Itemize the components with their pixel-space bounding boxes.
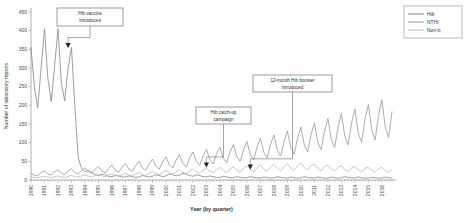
annotation-leader-line xyxy=(206,124,223,163)
y-tick-label: 200 xyxy=(19,102,28,108)
haemophilus-influenzae-line-chart: 050100150200250300350400450Number of lab… xyxy=(0,0,471,223)
x-axis-title: Year (by quarter) xyxy=(190,206,233,212)
x-tick-label: 2004 xyxy=(217,185,223,196)
annotation-arrow-icon xyxy=(204,163,209,168)
x-tick-label: 2003 xyxy=(203,185,209,196)
x-tick-label: 1995 xyxy=(95,185,101,196)
x-tick-label: 2011 xyxy=(311,185,317,196)
x-tick-label: 2013 xyxy=(338,185,344,196)
annotation-text-line: campaign xyxy=(214,117,234,122)
x-tick-label: 2007 xyxy=(257,185,263,196)
x-tick-label: 1990 xyxy=(28,185,34,196)
annotation-text-line: introduced xyxy=(282,85,304,90)
x-tick-label: 2002 xyxy=(190,185,196,196)
annotation-text-line: introduced xyxy=(79,18,101,23)
x-tick-label: 2001 xyxy=(176,185,182,196)
y-tick-label: 0 xyxy=(24,177,27,183)
x-tick-label: 1997 xyxy=(122,185,128,196)
annotation-hib-vaccine: Hib vaccineintroduced xyxy=(57,8,123,48)
x-tick-label: 2000 xyxy=(163,185,169,196)
annotation-leader-line xyxy=(68,26,90,43)
annotation-text-line: Hib catch-up xyxy=(211,110,237,115)
y-tick-label: 450 xyxy=(19,9,28,15)
legend-label-hib: Hib xyxy=(427,11,435,17)
x-tick-label: 1994 xyxy=(82,185,88,196)
x-tick-label: 1993 xyxy=(68,185,74,196)
x-tick-label: 2015 xyxy=(365,185,371,196)
legend-label-nthi: NTHI xyxy=(427,19,439,25)
annotation-hib-booster: 12-month Hib boosterintroduced xyxy=(248,75,332,169)
x-tick-label: 1996 xyxy=(109,185,115,196)
annotation-text-line: 12-month Hib booster xyxy=(270,78,315,83)
x-tick-label: 1999 xyxy=(149,185,155,196)
annotation-arrow-icon xyxy=(66,43,71,48)
chart-canvas: 050100150200250300350400450Number of lab… xyxy=(0,0,471,223)
legend-label-non-b: Non-b xyxy=(427,27,441,33)
x-tick-label: 2012 xyxy=(325,185,331,196)
chart-legend: HibNTHINon-b xyxy=(404,6,462,38)
y-tick-label: 100 xyxy=(19,139,28,145)
x-tick-label: 2014 xyxy=(352,185,358,196)
y-tick-label: 300 xyxy=(19,65,28,71)
y-tick-label: 400 xyxy=(19,27,28,33)
y-tick-label: 50 xyxy=(21,158,27,164)
series-line-hib xyxy=(31,29,392,178)
annotation-leader-line xyxy=(250,92,292,165)
y-tick-label: 350 xyxy=(19,46,28,52)
x-tick-label: 2008 xyxy=(271,185,277,196)
x-tick-label: 2005 xyxy=(230,185,236,196)
y-axis-title: Number of laboratory reports xyxy=(3,62,9,129)
x-tick-label: 1992 xyxy=(55,185,61,196)
x-tick-label: 1998 xyxy=(136,185,142,196)
annotation-text-line: Hib vaccine xyxy=(78,11,102,16)
y-tick-label: 150 xyxy=(19,121,28,127)
x-tick-label: 2006 xyxy=(244,185,250,196)
x-tick-label: 1991 xyxy=(41,185,47,196)
series-line-non-b xyxy=(31,163,392,178)
y-tick-label: 250 xyxy=(19,83,28,89)
x-tick-label: 2009 xyxy=(284,185,290,196)
x-tick-label: 2016 xyxy=(379,185,385,196)
x-tick-label: 2010 xyxy=(298,185,304,196)
